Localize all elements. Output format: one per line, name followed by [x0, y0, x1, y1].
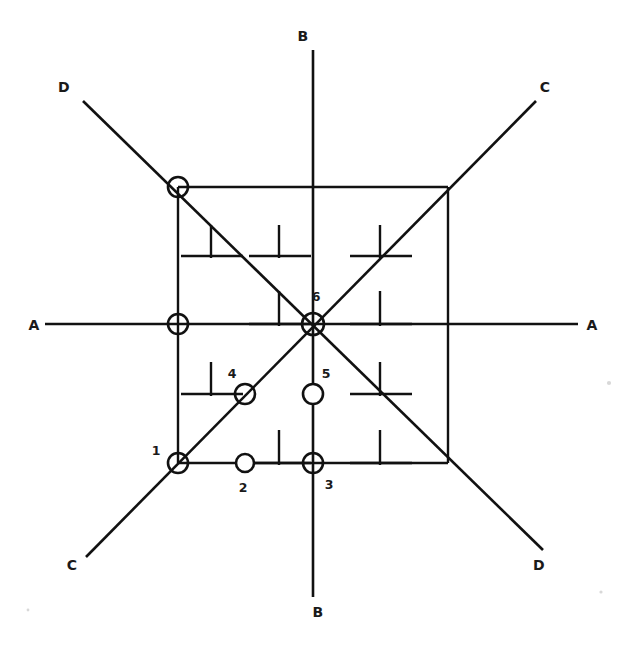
diagram-page: A A B B C C D D 1 2 3 4 5 6	[0, 0, 629, 659]
axis-label-b-bottom: B	[313, 604, 324, 620]
node-label-5: 5	[322, 366, 331, 381]
grid-diagram-canvas: A A B B C C D D 1 2 3 4 5 6	[0, 0, 629, 659]
tick-mark	[350, 430, 412, 465]
node-point-5[interactable]	[303, 384, 323, 404]
node-label-3: 3	[325, 477, 334, 492]
tick-mark	[350, 225, 412, 258]
paper-speck	[27, 609, 30, 612]
node-label-2: 2	[239, 480, 248, 495]
node-label-6: 6	[312, 289, 321, 304]
paper-speck	[599, 590, 602, 593]
axis-label-a-left: A	[28, 317, 39, 333]
axis-label-c-top-right: C	[540, 79, 550, 95]
axis-label-b-top: B	[298, 28, 309, 44]
tick-mark	[350, 291, 412, 326]
axis-label-c-bottom-left: C	[67, 557, 77, 573]
tick-mark	[181, 225, 243, 258]
tick-mark	[350, 362, 412, 396]
node-label-4: 4	[228, 366, 237, 381]
tick-mark	[249, 225, 311, 258]
axis-label-d-bottom-right: D	[533, 557, 545, 573]
axis-label-d-top-left: D	[58, 79, 70, 95]
tick-mark	[249, 430, 311, 465]
node-label-1: 1	[152, 443, 161, 458]
principal-axes	[45, 50, 578, 597]
axis-label-a-right: A	[586, 317, 597, 333]
node-point-2[interactable]	[236, 454, 254, 472]
paper-speck	[607, 381, 611, 385]
